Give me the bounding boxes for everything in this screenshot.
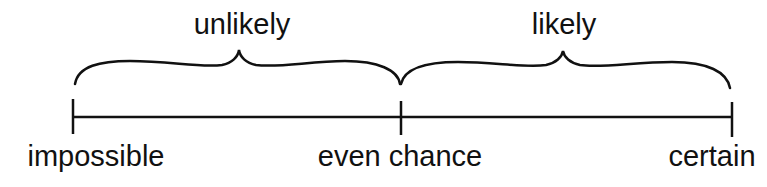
scale-label-even-chance: even chance xyxy=(318,142,482,171)
range-label-likely: likely xyxy=(532,10,596,39)
brace-likely xyxy=(401,51,730,88)
scale-label-impossible: impossible xyxy=(28,142,165,171)
scale-label-certain: certain xyxy=(668,142,755,171)
brace-unlikely xyxy=(75,50,400,84)
range-label-unlikely: unlikely xyxy=(194,10,291,39)
